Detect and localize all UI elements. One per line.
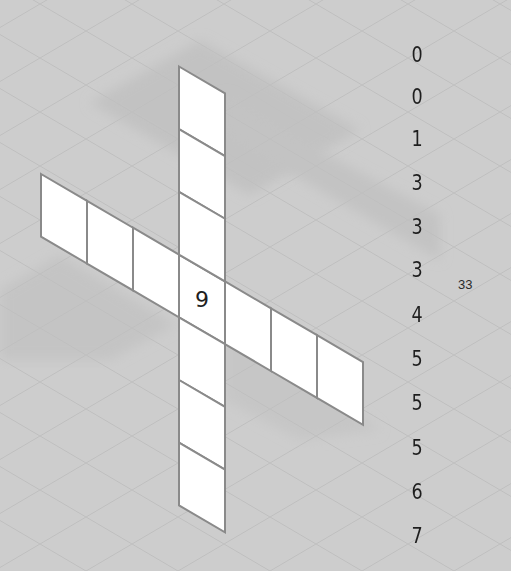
grid-cell-h5[interactable] bbox=[271, 308, 317, 398]
grid-cell-h4[interactable] bbox=[225, 281, 271, 371]
number-list-item: 1 bbox=[407, 126, 428, 151]
number-list-item: 4 bbox=[407, 302, 428, 327]
total-label: 33 bbox=[458, 277, 472, 292]
grid-cell-h1[interactable] bbox=[87, 201, 133, 291]
number-list-item: 5 bbox=[407, 390, 428, 415]
grid-cell-h0[interactable] bbox=[41, 174, 87, 264]
grid-cell-h2[interactable] bbox=[133, 228, 179, 318]
cell-value: 9 bbox=[195, 287, 209, 312]
number-list-item: 3 bbox=[407, 257, 428, 282]
number-list-item: 0 bbox=[407, 84, 428, 109]
number-list-item: 5 bbox=[407, 435, 428, 460]
number-list-item: 0 bbox=[407, 42, 428, 67]
cross-grid-board: 9 bbox=[0, 0, 511, 571]
number-list-item: 5 bbox=[407, 346, 428, 371]
number-list-item: 7 bbox=[407, 523, 428, 548]
number-list-item: 3 bbox=[407, 170, 428, 195]
number-list-item: 6 bbox=[407, 479, 428, 504]
grid-cell-h6[interactable] bbox=[317, 335, 363, 425]
number-list-item: 3 bbox=[407, 214, 428, 239]
